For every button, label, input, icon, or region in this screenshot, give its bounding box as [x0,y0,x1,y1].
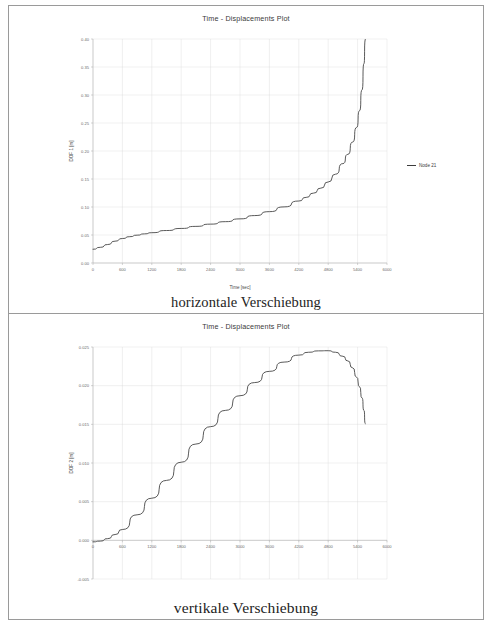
chart-2-plot: -0.0050.0000.0050.0100.0150.0200.0250600… [9,314,483,617]
svg-text:3000: 3000 [235,544,245,549]
figure-block-2: Time - Displacements Plot -0.0050.0000.0… [8,313,484,618]
svg-text:6000: 6000 [382,544,392,549]
svg-text:0.25: 0.25 [81,121,90,126]
svg-text:5400: 5400 [353,544,363,549]
svg-text:4800: 4800 [324,544,334,549]
svg-text:600: 600 [119,544,127,549]
svg-text:0: 0 [92,544,95,549]
svg-text:1200: 1200 [147,544,157,549]
svg-text:0.015: 0.015 [79,422,90,427]
figure-caption-1: horizontale Verschiebung [8,292,484,314]
svg-text:0.00: 0.00 [81,261,90,266]
svg-text:0.20: 0.20 [81,149,90,154]
legend-line-swatch-icon [407,165,416,166]
svg-text:0.025: 0.025 [79,345,90,350]
svg-text:-0.005: -0.005 [77,577,89,582]
chart-1-plot: 0.000.050.100.150.200.250.300.350.400600… [9,6,483,292]
figure-block-1: Time - Displacements Plot 0.000.050.100.… [8,5,484,293]
svg-text:DOF 1 [m]: DOF 1 [m] [69,140,74,161]
svg-text:0.010: 0.010 [79,461,90,466]
figure-caption-2: vertikale Verschiebung [8,596,484,620]
legend-label-node21: Node 21 [419,163,436,168]
svg-text:1800: 1800 [177,267,187,272]
svg-text:0.000: 0.000 [79,538,90,543]
chart-2: Time - Displacements Plot -0.0050.0000.0… [9,314,483,617]
svg-text:0.35: 0.35 [81,65,90,70]
svg-text:0.30: 0.30 [81,93,90,98]
svg-text:0.40: 0.40 [81,37,90,42]
chart-1: Time - Displacements Plot 0.000.050.100.… [9,6,483,292]
svg-text:0.10: 0.10 [81,205,90,210]
svg-text:0: 0 [92,267,95,272]
svg-text:1800: 1800 [177,544,187,549]
svg-text:2400: 2400 [206,267,216,272]
svg-text:Time [sec]: Time [sec] [229,285,250,290]
svg-text:6000: 6000 [382,267,392,272]
svg-text:3000: 3000 [235,267,245,272]
svg-text:600: 600 [119,267,127,272]
svg-text:4200: 4200 [294,544,304,549]
svg-text:4200: 4200 [294,267,304,272]
svg-text:0.005: 0.005 [79,499,90,504]
svg-text:0.05: 0.05 [81,233,90,238]
svg-text:DOF 2 [m]: DOF 2 [m] [69,452,74,473]
svg-text:0.020: 0.020 [79,383,90,388]
svg-text:0.15: 0.15 [81,177,90,182]
svg-text:1200: 1200 [147,267,157,272]
chart-1-legend: Node 21 [407,163,436,168]
svg-text:3600: 3600 [265,544,275,549]
svg-text:4800: 4800 [324,267,334,272]
svg-text:2400: 2400 [206,544,216,549]
document-page: Time - Displacements Plot 0.000.050.100.… [0,0,492,625]
svg-text:5400: 5400 [353,267,363,272]
svg-text:3600: 3600 [265,267,275,272]
